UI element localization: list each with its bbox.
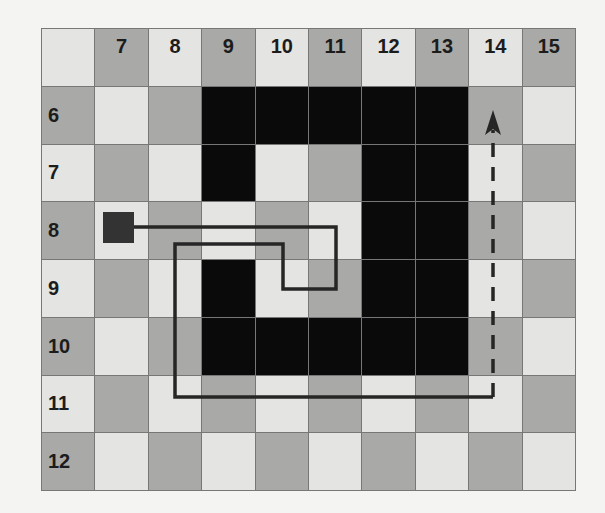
grid-cell [468, 86, 522, 145]
grid-cell [94, 144, 148, 203]
row-header: 8 [41, 201, 95, 260]
wall-cell [361, 201, 415, 260]
grid-cell [308, 432, 362, 491]
grid-cell [415, 432, 469, 491]
column-header: 8 [148, 28, 202, 87]
column-label: 12 [377, 35, 399, 58]
grid-cell [255, 144, 309, 203]
maze-grid: 7891011121314156789101112 [41, 28, 575, 490]
grid-cell [255, 432, 309, 491]
grid-cell [94, 317, 148, 376]
grid-cell [308, 144, 362, 203]
wall-cell [415, 86, 469, 145]
wall-cell [361, 144, 415, 203]
wall-cell [415, 201, 469, 260]
grid-cell [522, 259, 576, 318]
grid-cell [468, 375, 522, 434]
grid-cell [94, 86, 148, 145]
grid-cell [201, 375, 255, 434]
wall-cell [415, 317, 469, 376]
grid-cell [415, 375, 469, 434]
wall-cell [415, 259, 469, 318]
grid-cell [148, 375, 202, 434]
wall-cell [201, 259, 255, 318]
grid-cell [522, 317, 576, 376]
grid-cell [94, 201, 148, 260]
wall-cell [201, 317, 255, 376]
grid-cell [308, 375, 362, 434]
column-label: 8 [169, 35, 180, 58]
row-label: 8 [48, 219, 59, 242]
grid-cell [468, 317, 522, 376]
column-header: 9 [201, 28, 255, 87]
wall-cell [308, 317, 362, 376]
grid-cell [148, 201, 202, 260]
row-label: 9 [48, 277, 59, 300]
grid-cell [255, 375, 309, 434]
grid-cell [148, 144, 202, 203]
row-header: 9 [41, 259, 95, 318]
wall-cell [415, 144, 469, 203]
row-header: 10 [41, 317, 95, 376]
grid-cell [522, 144, 576, 203]
row-label: 10 [48, 335, 70, 358]
row-label: 7 [48, 161, 59, 184]
wall-cell [255, 317, 309, 376]
wall-cell [308, 86, 362, 145]
row-header: 6 [41, 86, 95, 145]
column-header: 13 [415, 28, 469, 87]
grid-cell [148, 317, 202, 376]
column-header: 15 [522, 28, 576, 87]
row-header: 12 [41, 432, 95, 491]
row-header: 11 [41, 375, 95, 434]
grid-cell [522, 201, 576, 260]
row-header: 7 [41, 144, 95, 203]
column-label: 11 [325, 35, 346, 58]
grid-cell [468, 259, 522, 318]
column-header: 14 [468, 28, 522, 87]
grid-cell [361, 375, 415, 434]
grid-cell [148, 86, 202, 145]
grid-cell [361, 432, 415, 491]
column-header: 11 [308, 28, 362, 87]
wall-cell [361, 317, 415, 376]
column-label: 10 [271, 35, 293, 58]
grid-cell [201, 432, 255, 491]
grid-cell [148, 259, 202, 318]
grid-cell [522, 432, 576, 491]
column-label: 14 [484, 35, 506, 58]
row-label: 6 [48, 104, 59, 127]
wall-cell [201, 86, 255, 145]
grid-cell [94, 432, 148, 491]
grid-cell [201, 201, 255, 260]
grid-cell [468, 144, 522, 203]
grid-cell [255, 201, 309, 260]
grid-cell [522, 375, 576, 434]
wall-cell [361, 259, 415, 318]
column-header: 10 [255, 28, 309, 87]
row-label: 12 [48, 450, 70, 473]
column-label: 13 [431, 35, 453, 58]
column-header: 12 [361, 28, 415, 87]
grid-cell [41, 28, 95, 87]
wall-cell [255, 86, 309, 145]
grid-cell [522, 86, 576, 145]
grid-cell [308, 201, 362, 260]
grid-cell [468, 432, 522, 491]
grid-cell [94, 259, 148, 318]
row-label: 11 [48, 392, 69, 415]
grid-cell [468, 201, 522, 260]
wall-cell [361, 86, 415, 145]
column-label: 7 [116, 35, 127, 58]
grid-cell [255, 259, 309, 318]
column-label: 15 [538, 35, 560, 58]
wall-cell [201, 144, 255, 203]
grid-cell [148, 432, 202, 491]
column-label: 9 [223, 35, 234, 58]
grid-cell [94, 375, 148, 434]
grid-cell [308, 259, 362, 318]
column-header: 7 [94, 28, 148, 87]
